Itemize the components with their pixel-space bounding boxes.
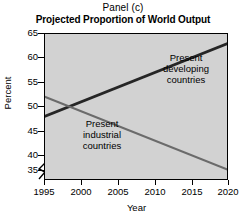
- x-tick-label: 2020: [211, 187, 245, 197]
- series-label-industrial: Present industrial countries: [62, 118, 142, 151]
- panel-label: Panel (c): [0, 2, 246, 14]
- figure-panel-c: Panel (c) Projected Proportion of World …: [0, 0, 246, 219]
- chart-title: Projected Proportion of World Output: [0, 14, 246, 26]
- y-tick-label: 60: [14, 52, 38, 62]
- x-tick-mark: [192, 180, 193, 185]
- x-tick-label: 2000: [64, 187, 98, 197]
- y-tick-label: 55: [14, 77, 38, 87]
- x-tick-label: 2015: [175, 187, 209, 197]
- x-tick-mark: [155, 180, 156, 185]
- y-tick-label: 65: [14, 28, 38, 38]
- y-axis-label: Percent: [3, 63, 13, 123]
- y-tick-label: 45: [14, 126, 38, 136]
- x-tick-mark: [44, 180, 45, 185]
- x-axis-label: Year: [44, 202, 229, 213]
- x-tick-label: 2005: [101, 187, 135, 197]
- y-tick-label: 50: [14, 101, 38, 111]
- series-label-developing: Present developing countries: [148, 52, 224, 85]
- x-tick-label: 1995: [27, 187, 61, 197]
- y-tick-label: 40: [14, 150, 38, 160]
- x-tick-label: 2010: [138, 187, 172, 197]
- x-tick-mark: [118, 180, 119, 185]
- x-tick-mark: [228, 180, 229, 185]
- x-tick-mark: [81, 180, 82, 185]
